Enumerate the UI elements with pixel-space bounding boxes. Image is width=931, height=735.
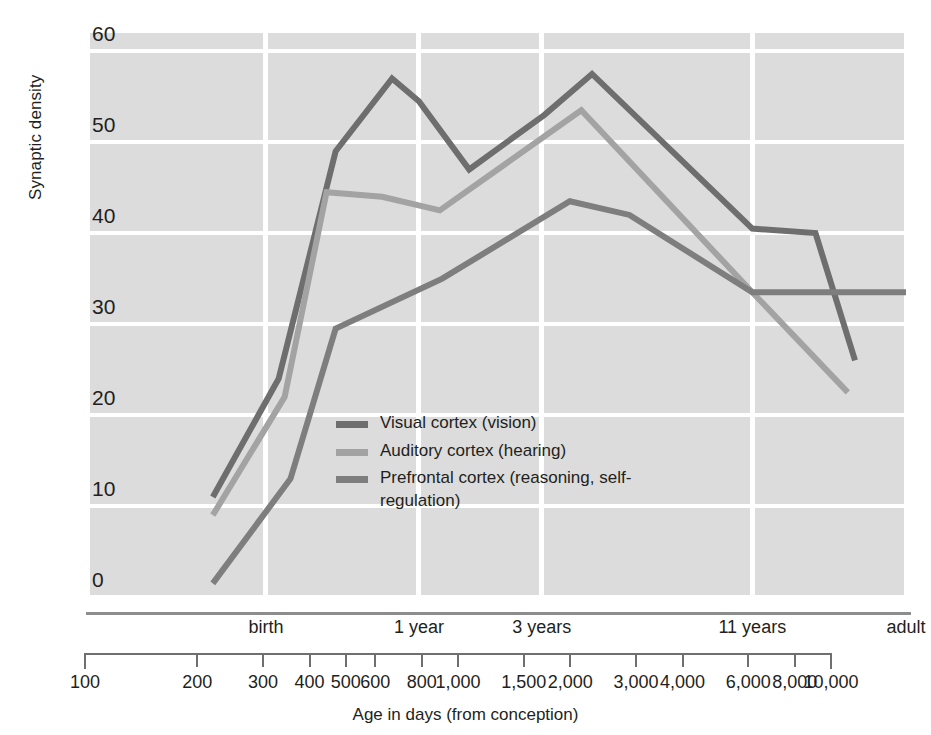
log-tick-label: 2,000: [548, 672, 593, 693]
era-label-1-year: 1 year: [394, 617, 444, 638]
log-tick-10000: [830, 653, 832, 669]
legend-label: Visual cortex (vision): [380, 412, 537, 435]
log-tick-800: [421, 653, 423, 667]
log-tick-label: 100: [70, 672, 100, 693]
log-tick-label: 200: [182, 672, 212, 693]
y-tick-label: 60: [92, 23, 138, 44]
y-axis-title: Synaptic density: [26, 0, 46, 200]
y-tick-label: 40: [92, 205, 138, 226]
legend-swatch-icon: [336, 449, 368, 456]
era-label-adult: adult: [886, 617, 925, 638]
log-tick-label: 500: [331, 672, 361, 693]
y-tick-label: 30: [92, 296, 138, 317]
x-axis-baseline: [86, 612, 911, 615]
log-tick-1000: [457, 653, 459, 667]
x-axis-title: Age in days (from conception): [0, 705, 931, 725]
log-tick-8000: [794, 653, 796, 667]
legend-item: Visual cortex (vision): [336, 412, 666, 435]
log-tick-label: 3,000: [613, 672, 658, 693]
legend-item: Prefrontal cortex (reasoning, self-regul…: [336, 467, 666, 512]
y-tick-label: 50: [92, 114, 138, 135]
legend-swatch-icon: [336, 421, 368, 428]
log-tick-6000: [747, 653, 749, 667]
log-tick-label: 600: [360, 672, 390, 693]
log-tick-200: [196, 653, 198, 667]
log-tick-label: 10,000: [803, 672, 858, 693]
log-tick-100: [84, 653, 86, 669]
log-tick-1500: [523, 653, 525, 667]
log-tick-label: 4,000: [660, 672, 705, 693]
chart-legend: Visual cortex (vision)Auditory cortex (h…: [336, 412, 666, 517]
legend-label: Prefrontal cortex (reasoning, self-regul…: [380, 467, 666, 512]
log-tick-label: 1,000: [435, 672, 480, 693]
log-tick-2000: [569, 653, 571, 667]
log-tick-label: 1,500: [501, 672, 546, 693]
y-tick-label: 20: [92, 387, 138, 408]
era-label-11-years: 11 years: [718, 617, 786, 638]
log-scale-ruler: [0, 653, 931, 671]
log-tick-300: [262, 653, 264, 667]
log-tick-label: 300: [248, 672, 278, 693]
log-tick-label: 6,000: [726, 672, 771, 693]
log-tick-label: 400: [295, 672, 325, 693]
log-tick-3000: [635, 653, 637, 667]
legend-label: Auditory cortex (hearing): [380, 440, 566, 463]
log-tick-500: [345, 653, 347, 667]
chart-figure: Synaptic density 0102030405060 birth1 ye…: [0, 0, 931, 735]
series-line: [213, 201, 906, 583]
era-label-birth: birth: [248, 617, 283, 638]
legend-swatch-icon: [336, 476, 368, 483]
log-tick-400: [309, 653, 311, 667]
era-label-3-years: 3 years: [512, 617, 571, 638]
log-tick-4000: [682, 653, 684, 667]
legend-item: Auditory cortex (hearing): [336, 440, 666, 463]
y-tick-label: 0: [92, 569, 138, 590]
y-tick-label: 10: [92, 478, 138, 499]
log-tick-600: [374, 653, 376, 667]
log-tick-label: 800: [407, 672, 437, 693]
